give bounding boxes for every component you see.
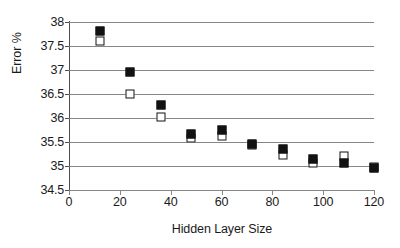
y-tick-label: 36 — [50, 112, 64, 125]
y-tick-mark — [65, 70, 69, 71]
gridline-horizontal — [69, 70, 374, 71]
data-point-filled-square — [248, 140, 257, 149]
data-point-filled-square — [278, 145, 287, 154]
data-point-open-square — [126, 90, 135, 99]
data-point-open-square — [156, 112, 165, 121]
data-point-filled-square — [187, 129, 196, 138]
y-tick-mark — [65, 94, 69, 95]
gridline-horizontal — [69, 142, 374, 143]
y-tick-mark — [65, 22, 69, 23]
y-tick-mark — [65, 166, 69, 167]
data-point-filled-square — [156, 100, 165, 109]
plot-area — [69, 22, 374, 190]
x-tick-label: 100 — [313, 196, 333, 209]
error-vs-hidden-layer-size-chart: 34.53535.53636.53737.538 Error % Hidden … — [0, 0, 400, 248]
data-point-filled-square — [370, 164, 379, 173]
y-tick-mark — [65, 142, 69, 143]
gridline-horizontal — [69, 94, 374, 95]
data-point-filled-square — [309, 154, 318, 163]
y-axis-title: Error % — [10, 32, 24, 74]
y-tick-mark — [65, 46, 69, 47]
x-tick-label: 60 — [215, 196, 229, 209]
data-point-filled-square — [126, 67, 135, 76]
x-tick-label: 0 — [66, 196, 73, 209]
y-tick-label: 36.5 — [40, 88, 64, 101]
y-tick-label: 37.5 — [40, 40, 64, 53]
data-point-filled-square — [95, 26, 104, 35]
x-tick-label: 20 — [113, 196, 127, 209]
gridline-horizontal — [69, 22, 374, 23]
gridline-horizontal — [69, 118, 374, 119]
y-tick-mark — [65, 118, 69, 119]
x-axis-title: Hidden Layer Size — [69, 222, 375, 236]
data-point-open-square — [95, 37, 104, 46]
y-tick-label: 38 — [50, 16, 64, 29]
gridline-horizontal — [69, 166, 374, 167]
x-tick-label: 40 — [164, 196, 178, 209]
y-tick-label: 35.5 — [40, 136, 64, 149]
y-tick-label: 37 — [50, 64, 64, 77]
data-point-filled-square — [217, 126, 226, 135]
x-tick-label: 120 — [364, 196, 384, 209]
data-point-filled-square — [339, 158, 348, 167]
gridline-horizontal — [69, 46, 374, 47]
x-tick-label: 80 — [266, 196, 280, 209]
y-tick-label: 34.5 — [40, 184, 64, 197]
y-tick-label: 35 — [50, 160, 64, 173]
